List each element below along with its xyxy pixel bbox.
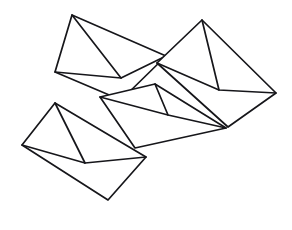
artboard [0,0,292,230]
envelopes-illustration [0,0,292,230]
